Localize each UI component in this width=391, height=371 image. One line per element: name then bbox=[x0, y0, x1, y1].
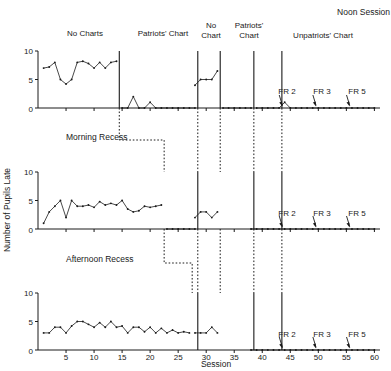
data-point-panel-2-s1-2 bbox=[177, 228, 179, 230]
data-point-panel-2-s3-7 bbox=[289, 228, 291, 230]
data-point-panel-3-s0-7 bbox=[82, 321, 84, 323]
x-tick-35: 35 bbox=[230, 353, 239, 362]
data-point-panel-1-s3-4 bbox=[244, 107, 246, 109]
data-point-panel-3-s2-10 bbox=[306, 349, 308, 351]
data-point-panel-2-s0-2 bbox=[54, 205, 56, 207]
data-point-panel-2-s3-13 bbox=[323, 228, 325, 230]
data-point-panel-1-s0-5 bbox=[71, 79, 73, 81]
x-tick-50: 50 bbox=[314, 353, 323, 362]
data-point-panel-1-s0-3 bbox=[59, 79, 61, 81]
data-point-panel-3-s0-2 bbox=[54, 326, 56, 328]
fr-arrowhead-2-panel-2 bbox=[347, 223, 350, 228]
data-point-panel-3-s2-18 bbox=[351, 349, 353, 351]
data-point-panel-1-s0-11 bbox=[104, 67, 106, 69]
data-point-panel-2-s0-20 bbox=[155, 205, 157, 207]
data-point-panel-3-s2-21 bbox=[368, 349, 370, 351]
y-tick-0-panel-1: 0 bbox=[29, 105, 34, 114]
x-tick-10: 10 bbox=[90, 353, 99, 362]
data-point-panel-1-s3-5 bbox=[250, 107, 252, 109]
phase-connector-1 bbox=[119, 108, 164, 172]
y-tick-5-panel-3: 5 bbox=[29, 318, 34, 327]
data-point-panel-2-s3-1 bbox=[256, 228, 258, 230]
fr5-label-panel-2: FR 5 bbox=[348, 209, 366, 218]
data-point-panel-1-s0-10 bbox=[99, 61, 101, 63]
data-point-panel-1-s3-3 bbox=[239, 107, 241, 109]
data-point-panel-3-s2-15 bbox=[334, 349, 336, 351]
data-point-panel-1-s4-16 bbox=[345, 107, 347, 109]
data-point-panel-1-s1-13 bbox=[194, 107, 196, 109]
x-tick-15: 15 bbox=[118, 353, 127, 362]
data-point-panel-1-s0-0 bbox=[43, 67, 45, 69]
data-point-panel-3-s1-0 bbox=[194, 332, 196, 334]
data-point-panel-2-s3-3 bbox=[267, 228, 269, 230]
data-point-panel-2-s1-5 bbox=[194, 228, 196, 230]
data-point-panel-3-s2-19 bbox=[357, 349, 359, 351]
data-point-panel-2-s0-7 bbox=[82, 205, 84, 207]
fr2-label-panel-2: FR 2 bbox=[278, 209, 296, 218]
data-point-panel-1-s4-13 bbox=[329, 107, 331, 109]
x-tick-40: 40 bbox=[258, 353, 267, 362]
data-point-panel-1-s4-3 bbox=[273, 107, 275, 109]
data-point-panel-1-s4-1 bbox=[261, 107, 263, 109]
data-point-panel-2-s2-4 bbox=[216, 211, 218, 213]
phase-label-patriots-chart-1: Patriots' Chart bbox=[138, 29, 189, 38]
data-point-panel-2-s0-0 bbox=[43, 222, 45, 224]
data-point-panel-3-s2-3 bbox=[267, 349, 269, 351]
x-tick-30: 30 bbox=[202, 353, 211, 362]
data-point-panel-1-s0-2 bbox=[54, 61, 56, 63]
data-point-panel-1-s1-3 bbox=[138, 107, 140, 109]
data-point-panel-2-s3-0 bbox=[250, 228, 252, 230]
data-point-panel-3-s0-22 bbox=[166, 332, 168, 334]
data-point-panel-1-s1-6 bbox=[155, 107, 157, 109]
noon-session-label: Noon Session bbox=[337, 7, 390, 17]
series-line-2-panel-1 bbox=[195, 71, 217, 85]
data-point-panel-1-s1-11 bbox=[183, 107, 185, 109]
data-point-panel-2-s3-21 bbox=[368, 228, 370, 230]
data-point-panel-1-s1-8 bbox=[166, 107, 168, 109]
data-point-panel-3-s2-12 bbox=[317, 349, 319, 351]
data-point-panel-2-s1-3 bbox=[183, 228, 185, 230]
fr2-label-panel-1: FR 2 bbox=[278, 87, 296, 96]
data-point-panel-1-s1-10 bbox=[177, 107, 179, 109]
fr3-label-panel-2: FR 3 bbox=[313, 209, 331, 218]
data-point-panel-3-s0-0 bbox=[43, 332, 45, 334]
series-line-1-panel-1 bbox=[122, 97, 195, 108]
data-point-panel-3-s2-9 bbox=[301, 349, 303, 351]
data-point-panel-3-s2-6 bbox=[284, 349, 286, 351]
data-point-panel-1-s2-1 bbox=[200, 79, 202, 81]
data-point-panel-1-s4-17 bbox=[351, 107, 353, 109]
data-point-panel-2-s3-12 bbox=[317, 228, 319, 230]
data-point-panel-1-s2-2 bbox=[205, 79, 207, 81]
phase-label-no-charts: No Charts bbox=[67, 29, 103, 38]
data-point-panel-2-s0-19 bbox=[149, 206, 151, 208]
data-point-panel-2-s3-18 bbox=[351, 228, 353, 230]
data-point-panel-2-s0-11 bbox=[104, 204, 106, 206]
data-point-panel-1-s4-19 bbox=[362, 107, 364, 109]
data-point-panel-2-s3-16 bbox=[340, 228, 342, 230]
data-point-panel-3-s0-10 bbox=[99, 322, 101, 324]
data-point-panel-1-s2-4 bbox=[216, 70, 218, 72]
phase-label-unpatriots-chart: Unpatriots' Chart bbox=[293, 31, 354, 40]
data-point-panel-2-s0-4 bbox=[65, 217, 67, 219]
fr-arrowhead-1-panel-2 bbox=[313, 223, 316, 228]
data-point-panel-2-s0-18 bbox=[144, 205, 146, 207]
data-point-panel-2-s0-1 bbox=[48, 211, 50, 213]
data-point-panel-3-s2-2 bbox=[261, 349, 263, 351]
phase-connector-2 bbox=[164, 229, 192, 293]
data-point-panel-2-s3-19 bbox=[357, 228, 359, 230]
x-tick-25: 25 bbox=[174, 353, 183, 362]
data-point-panel-3-s2-8 bbox=[295, 349, 297, 351]
y-tick-10-panel-1: 10 bbox=[24, 47, 33, 56]
data-point-panel-1-s4-6 bbox=[289, 107, 291, 109]
multi-panel-line-chart: Noon Session No Charts Patriots' Chart N… bbox=[0, 0, 391, 371]
data-point-panel-2-s2-3 bbox=[211, 217, 213, 219]
data-point-panel-1-s1-0 bbox=[121, 107, 123, 109]
y-tick-5-panel-1: 5 bbox=[29, 76, 34, 85]
data-point-panel-1-s4-20 bbox=[368, 107, 370, 109]
data-point-panel-2-s0-10 bbox=[99, 201, 101, 203]
data-point-panel-3-s1-1 bbox=[200, 332, 202, 334]
data-point-panel-1-s1-1 bbox=[127, 107, 129, 109]
data-point-panel-2-s3-11 bbox=[312, 228, 314, 230]
data-point-panel-3-s0-25 bbox=[183, 331, 185, 333]
data-point-panel-3-s0-1 bbox=[48, 332, 50, 334]
